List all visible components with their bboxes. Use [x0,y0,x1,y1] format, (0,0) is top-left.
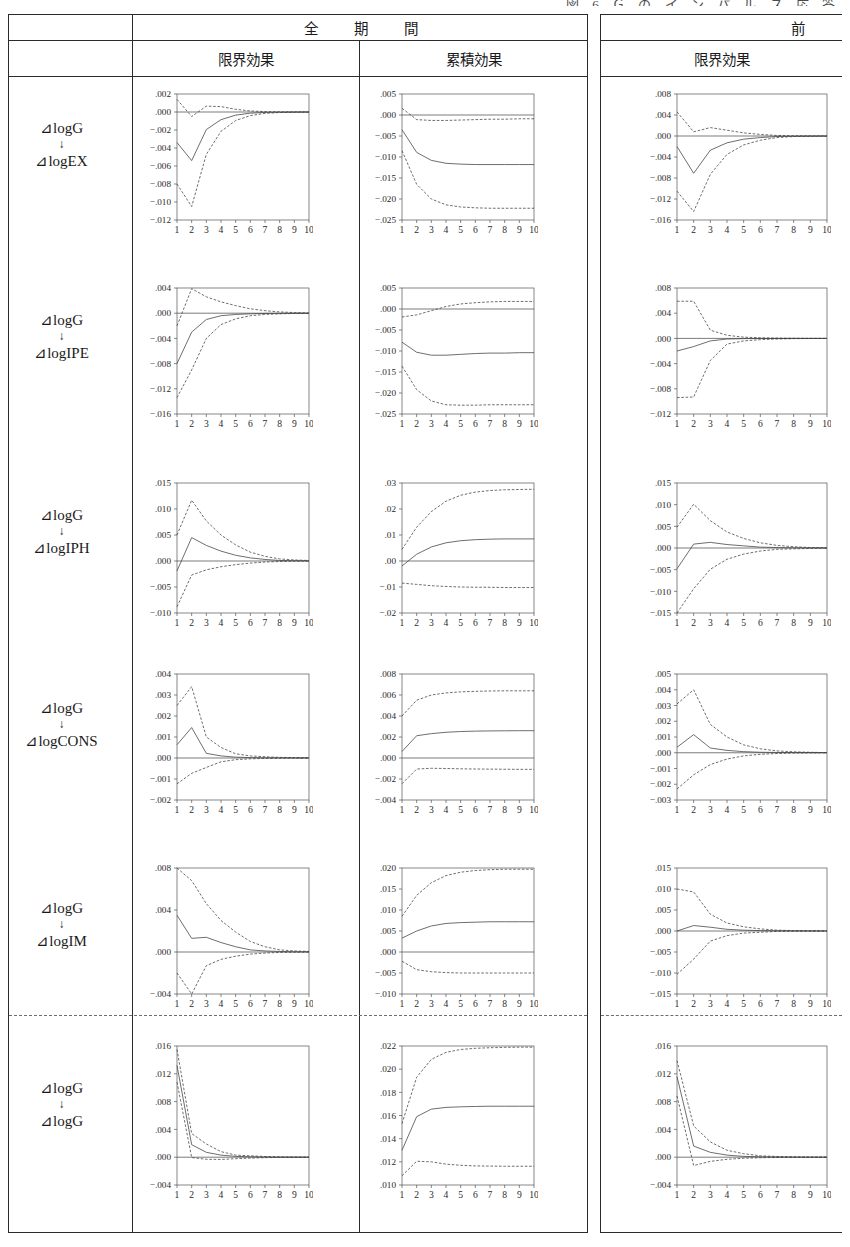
y-tick-label: .016 [380,1111,396,1121]
x-tick-label: 3 [204,1189,209,1200]
chart-r4c1: .004.003.002.001.000−.001−.0021234567891… [133,668,313,820]
x-tick-label: 2 [189,998,194,1009]
y-tick-label: −.004 [150,143,172,153]
x-tick-label: 1 [675,617,680,628]
y-tick-label: .004 [655,685,671,695]
x-tick-label: 1 [675,804,680,815]
x-tick-label: 7 [488,1189,493,1200]
x-tick-label: 1 [400,224,405,235]
series-point [177,112,309,161]
row-label-4: ⊿logG↓⊿logCONS [0,698,123,752]
y-tick-label: .016 [155,1041,171,1051]
y-tick-label: .01 [385,530,397,540]
x-tick-label: 3 [708,418,713,429]
y-tick-label: −.001 [150,774,172,784]
chart-canvas-r4c2: .008.006.004.002.000−.002−.0041234567891… [358,668,538,820]
x-tick-label: 2 [189,617,194,628]
x-tick-label: 6 [248,224,253,235]
x-tick-label: 9 [517,418,522,429]
x-tick-label: 5 [458,804,463,815]
x-tick-label: 4 [219,1189,224,1200]
x-tick-label: 3 [708,617,713,628]
x-tick-label: 6 [473,804,478,815]
x-tick-label: 6 [248,804,253,815]
x-tick-label: 1 [175,418,180,429]
down-arrow-icon: ↓ [0,330,123,343]
chart-canvas-r2c2: .005.000−.005−.010−.015−.020−.0251234567… [358,282,538,434]
x-tick-label: 1 [400,1189,405,1200]
x-tick-label: 4 [725,804,730,815]
row-label-from: ⊿logG [40,900,83,916]
y-tick-label: .012 [380,1157,396,1167]
y-tick-label: .006 [380,690,396,700]
series-upper [177,687,309,758]
row-label-6: ⊿logG↓⊿logG [0,1078,123,1132]
x-tick-label: 2 [414,617,419,628]
x-tick-label: 10 [529,804,538,815]
y-tick-label: .012 [655,1069,671,1079]
y-tick-label: .015 [155,478,171,488]
y-tick-label: −.010 [375,152,397,162]
x-tick-label: 8 [277,224,282,235]
y-tick-label: −.025 [375,409,397,419]
down-arrow-icon: ↓ [0,1098,123,1111]
x-tick-label: 4 [444,804,449,815]
y-tick-label: −.016 [150,409,172,419]
y-tick-label: −.004 [150,1180,172,1190]
x-tick-label: 9 [808,418,813,429]
x-tick-label: 9 [292,617,297,628]
x-tick-label: 4 [444,1189,449,1200]
x-tick-label: 10 [822,1189,831,1200]
series-lower [677,753,827,789]
y-tick-label: .022 [380,1041,396,1051]
series-lower [402,768,534,783]
series-lower [177,758,309,784]
series-point [402,130,534,165]
series-lower [402,366,534,405]
series-lower [677,548,827,613]
x-tick-label: 6 [473,1189,478,1200]
series-point [177,1065,309,1157]
chart-r2c3: .008.004.000−.004−.008−.01212345678910 [633,282,831,434]
y-tick-label: .003 [655,701,671,711]
y-tick-label: .005 [380,283,396,293]
y-tick-label: .008 [380,669,396,679]
series-lower [177,561,309,607]
row-label-to: ⊿logG [40,1113,83,1129]
x-tick-label: 7 [775,418,780,429]
x-tick-label: 6 [473,998,478,1009]
y-tick-label: −.001 [650,764,672,774]
x-tick-label: 7 [488,998,493,1009]
x-tick-label: 10 [304,1189,313,1200]
y-tick-label: −.015 [375,367,397,377]
x-tick-label: 6 [758,418,763,429]
series-upper [677,112,827,136]
x-tick-label: 10 [822,224,831,235]
y-tick-label: −.010 [150,608,172,618]
x-tick-label: 4 [219,418,224,429]
y-tick-label: .003 [155,690,171,700]
row-label-from: ⊿logG [40,312,83,328]
figure-top-caption: 図 6 Ｇ の イ ン パ ル ス 応 答 [566,0,840,6]
x-tick-label: 4 [219,804,224,815]
series-lower [177,1082,309,1159]
x-tick-label: 7 [488,224,493,235]
row-group-separator-right [601,1015,842,1016]
x-tick-label: 5 [233,418,238,429]
x-tick-label: 10 [529,224,538,235]
series-point [402,1106,534,1150]
row-label-to: ⊿logEX [35,153,87,169]
x-tick-label: 3 [204,617,209,628]
chart-canvas-r6c2: .022.020.018.016.014.012.01012345678910 [358,1040,538,1205]
x-tick-label: 1 [400,804,405,815]
y-tick-label: −.008 [650,173,672,183]
x-tick-label: 4 [219,224,224,235]
x-tick-label: 3 [204,998,209,1009]
y-tick-label: .015 [380,884,396,894]
y-tick-label: .02 [385,504,397,514]
row-group-separator-left [9,1015,587,1016]
x-tick-label: 6 [758,998,763,1009]
series-upper [177,500,309,560]
chart-r3c2: .03.02.01.00−.01−.0212345678910 [358,477,538,633]
y-tick-label: .010 [655,500,671,510]
